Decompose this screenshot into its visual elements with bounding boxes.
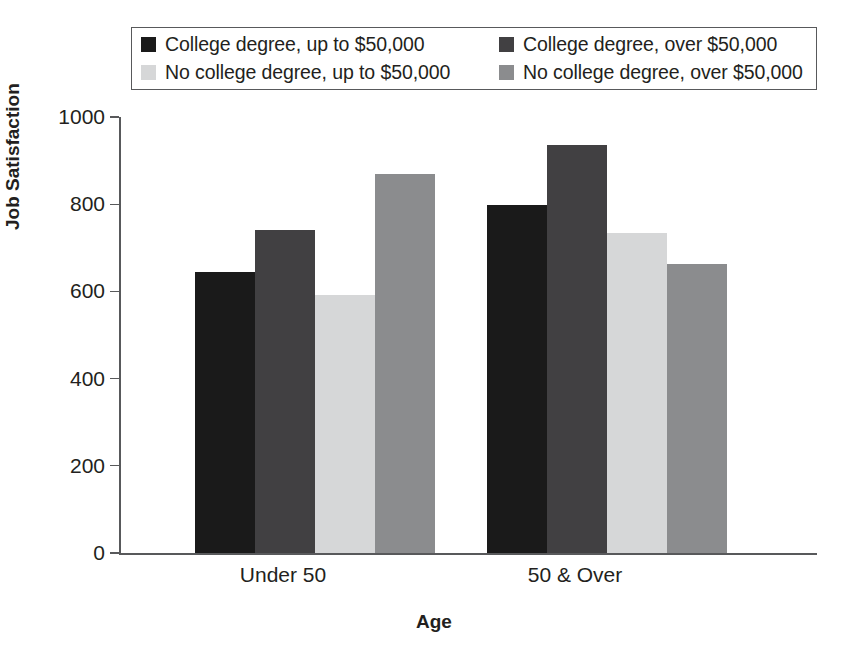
y-axis-line xyxy=(119,117,121,553)
legend-label-series-4: No college degree, over $50,000 xyxy=(523,63,803,83)
x-axis-line xyxy=(119,553,817,555)
legend-label-series-2: College degree, over $50,000 xyxy=(523,35,777,55)
x-axis-title: Age xyxy=(0,611,868,633)
y-tick-200 xyxy=(110,465,119,466)
y-tick-label-1000: 1000 xyxy=(58,105,105,129)
y-tick-label-400: 400 xyxy=(70,367,105,391)
legend-item-no-college-over-50k: No college degree, over $50,000 xyxy=(499,63,810,83)
legend-item-college-over-50k: College degree, over $50,000 xyxy=(499,35,810,55)
x-category-label-under-50: Under 50 xyxy=(195,563,371,587)
y-tick-label-800: 800 xyxy=(70,192,105,216)
legend-swatch-icon-series-4 xyxy=(499,65,514,80)
bar-group-1-series-3 xyxy=(315,295,375,553)
y-tick-0 xyxy=(110,552,119,553)
y-axis-title: Job Satisfaction xyxy=(2,0,24,230)
bar-chart: College degree, up to $50,000 College de… xyxy=(0,0,868,665)
legend-swatch-icon-series-3 xyxy=(141,65,156,80)
legend-swatch-icon-series-2 xyxy=(499,37,514,52)
y-tick-label-0: 0 xyxy=(93,541,105,565)
legend-item-no-college-up-to-50k: No college degree, up to $50,000 xyxy=(141,63,499,83)
y-tick-label-600: 600 xyxy=(70,279,105,303)
bar-group-2-series-4 xyxy=(667,264,727,553)
y-tick-800 xyxy=(110,204,119,205)
y-tick-400 xyxy=(110,378,119,379)
bar-group-1-series-4 xyxy=(375,174,435,553)
y-tick-label-200: 200 xyxy=(70,454,105,478)
y-tick-600 xyxy=(110,291,119,292)
bar-group-2-series-2 xyxy=(547,145,607,553)
plot-area: 02004006008001000 xyxy=(119,117,817,553)
chart-legend: College degree, up to $50,000 College de… xyxy=(131,27,817,90)
legend-label-series-1: College degree, up to $50,000 xyxy=(165,35,424,55)
bar-group-2-series-1 xyxy=(487,205,547,553)
x-category-label-50-and-over: 50 & Over xyxy=(487,563,663,587)
bar-group-1-series-2 xyxy=(255,230,315,553)
bar-group-2-series-3 xyxy=(607,233,667,553)
bar-group-1-series-1 xyxy=(195,272,255,553)
legend-label-series-3: No college degree, up to $50,000 xyxy=(165,63,450,83)
legend-swatch-icon-series-1 xyxy=(141,37,156,52)
legend-item-college-up-to-50k: College degree, up to $50,000 xyxy=(141,35,499,55)
y-tick-1000 xyxy=(110,116,119,117)
